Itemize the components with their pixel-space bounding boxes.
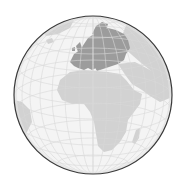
globe-svg xyxy=(0,0,186,187)
globe-map xyxy=(0,0,186,187)
